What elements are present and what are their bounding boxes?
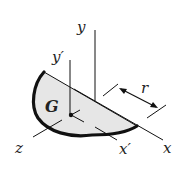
r-dimension-line (121, 89, 156, 107)
y-axis-label: y (76, 18, 86, 36)
x-axis-label: x (163, 139, 172, 157)
z-axis-label: z (14, 139, 23, 157)
semicircular-plate-diagram: y y′ G r z x′ x (0, 0, 182, 171)
radius-label: r (141, 79, 149, 97)
centroid-label: G (45, 97, 59, 116)
y-prime-axis-label: y′ (51, 48, 64, 66)
diagram-svg: y y′ G r z x′ x (0, 0, 182, 171)
r-tick-left (103, 84, 118, 96)
x-prime-axis-label: x′ (119, 140, 131, 158)
